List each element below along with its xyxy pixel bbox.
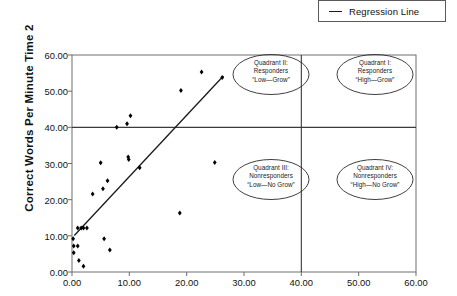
plot-frame <box>72 55 416 272</box>
regression-line <box>74 76 223 235</box>
plot-area <box>0 0 457 296</box>
axis-tick-marks <box>68 55 416 276</box>
quadrant-divider-lines <box>72 55 416 272</box>
scatter-plot-figure: Regression Line Correct Words Per Minute… <box>0 0 457 296</box>
